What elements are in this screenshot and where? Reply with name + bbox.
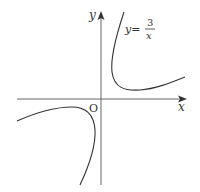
equation-lhs: y= (124, 23, 140, 36)
x-axis-label: x (178, 100, 185, 114)
function-graph: y x O y= 3 x (0, 0, 200, 192)
equation-label: y= 3 x (124, 17, 155, 41)
y-axis-label: y (88, 8, 96, 22)
curve-lower-branch (17, 107, 95, 185)
equation-denominator: x (146, 30, 152, 41)
equation-numerator: 3 (147, 17, 153, 28)
origin-label: O (89, 102, 98, 115)
